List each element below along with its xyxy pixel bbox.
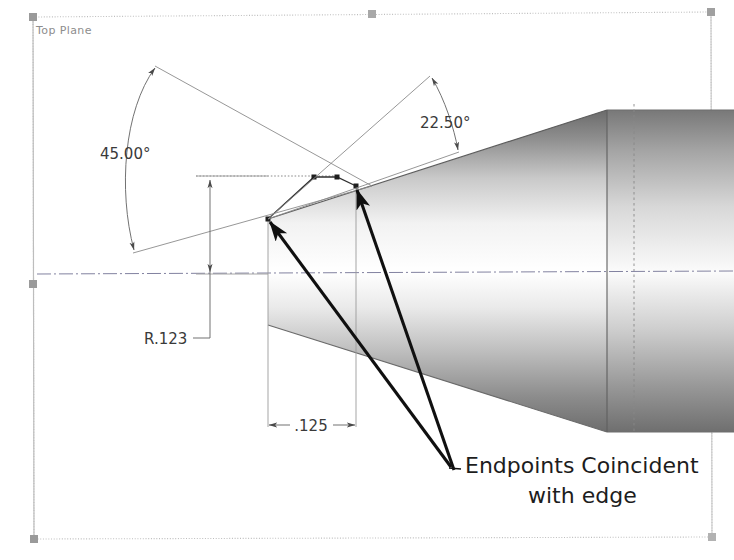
plane-handle-top-right[interactable] xyxy=(707,8,715,16)
plane-label: Top Plane xyxy=(35,24,92,37)
dim125-value[interactable]: .125 xyxy=(294,417,327,435)
angle45-ray-upper xyxy=(155,66,372,186)
relation-note-line2[interactable]: with edge xyxy=(528,483,637,508)
cad-viewport[interactable]: Top Plane xyxy=(0,0,734,560)
plane-handle-bottom-left[interactable] xyxy=(30,535,38,543)
sketch-point-top-right[interactable] xyxy=(335,175,340,180)
cylinder-lower-surface[interactable] xyxy=(607,272,734,432)
r123-leader[interactable] xyxy=(193,272,210,338)
plane-handle-bottom-right[interactable] xyxy=(708,533,716,541)
r123-value[interactable]: R.123 xyxy=(144,330,187,348)
plane-border-left xyxy=(33,17,34,539)
linear-dimension-125[interactable]: .125 xyxy=(268,417,356,435)
relation-note-line1[interactable]: Endpoints Coincident xyxy=(465,453,699,478)
plane-handle-mid-left[interactable] xyxy=(29,280,37,288)
cylinder-upper-surface[interactable] xyxy=(607,110,734,272)
leader-shoulder xyxy=(449,468,461,469)
angle45-value[interactable]: 45.00° xyxy=(100,145,150,163)
revolved-cone-solid[interactable] xyxy=(268,104,734,432)
relation-note[interactable]: Endpoints Coincident with edge xyxy=(465,453,699,508)
plane-handle-top-center[interactable] xyxy=(368,10,376,18)
angle22-value[interactable]: 22.50° xyxy=(420,114,470,132)
plane-handle-top-left[interactable] xyxy=(29,13,37,21)
radius-dimension-r123[interactable]: R.123 xyxy=(144,176,268,348)
